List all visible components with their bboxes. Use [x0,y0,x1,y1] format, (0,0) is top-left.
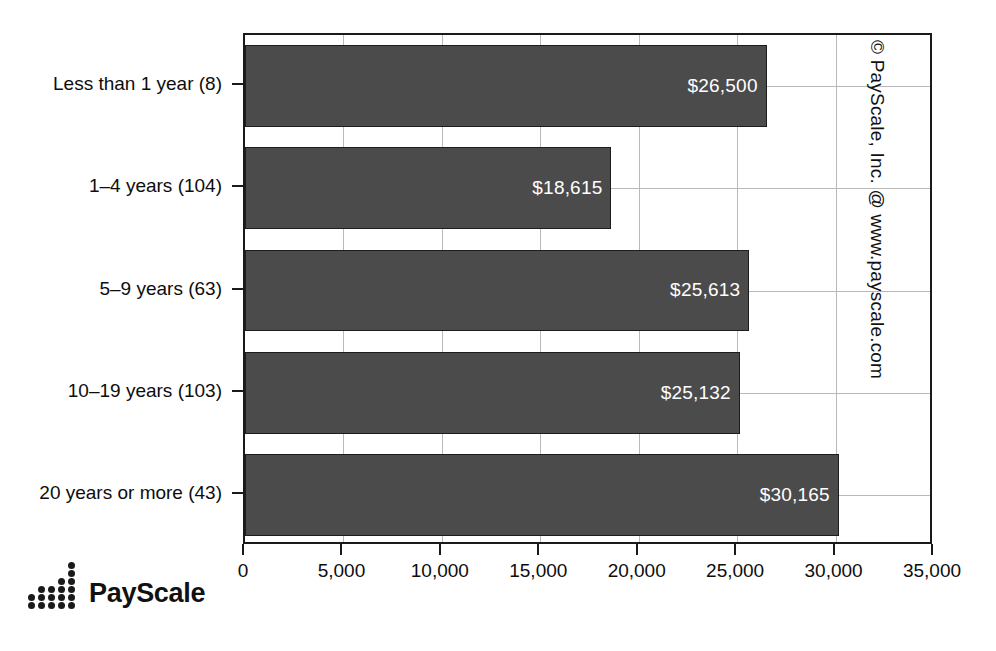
y-axis-tick-label: Less than 1 year (8) [53,73,222,95]
x-axis-tick-mark [537,544,539,555]
x-axis-tick-label: 30,000 [805,560,863,582]
x-axis-tick-mark [636,544,638,555]
x-axis-tick-mark [734,544,736,555]
bar-value-label: $25,132 [661,382,731,404]
bar: $25,132 [245,352,740,434]
y-axis-tick-mark [232,288,243,290]
x-axis-tick-label: 35,000 [903,560,961,582]
x-axis-tick-label: 0 [238,560,249,582]
bar-value-label: $18,615 [532,177,602,199]
y-axis-tick-label: 20 years or more (43) [39,482,222,504]
bar: $26,500 [245,45,767,127]
x-axis-tick-mark [931,544,933,555]
bar-value-label: $25,613 [670,279,740,301]
x-axis-tick-label: 10,000 [411,560,469,582]
x-axis-tick-label: 20,000 [608,560,666,582]
plot-area: $26,500$18,615$25,613$25,132$30,165 [243,33,932,544]
payscale-wordmark: PayScale [89,580,205,610]
bar-value-label: $30,165 [760,484,830,506]
copyright-notice: © PayScale, Inc. @ www.payscale.com [866,40,888,540]
x-axis-tick-mark [439,544,441,555]
x-axis-tick-mark [833,544,835,555]
bar: $25,613 [245,250,749,332]
bar-chart: Less than 1 year (8)1–4 years (104)5–9 y… [0,0,996,651]
y-axis-tick-mark [232,390,243,392]
y-axis-tick-mark [232,185,243,187]
bar-value-label: $26,500 [688,75,758,97]
payscale-logo: PayScale [28,562,205,610]
payscale-dots-icon [28,562,80,610]
x-axis-tick-label: 15,000 [509,560,567,582]
y-axis-tick-label: 10–19 years (103) [68,380,222,402]
x-axis-tick-mark [340,544,342,555]
y-axis-tick-mark [232,83,243,85]
x-axis-tick-label: 5,000 [318,560,366,582]
bar: $18,615 [245,147,611,229]
x-axis-tick-mark [242,544,244,555]
bar: $30,165 [245,454,839,536]
x-axis-tick-label: 25,000 [706,560,764,582]
y-axis-tick-label: 1–4 years (104) [89,175,222,197]
y-axis-tick-mark [232,492,243,494]
y-axis-tick-label: 5–9 years (63) [99,278,222,300]
y-axis-labels: Less than 1 year (8)1–4 years (104)5–9 y… [0,0,222,651]
